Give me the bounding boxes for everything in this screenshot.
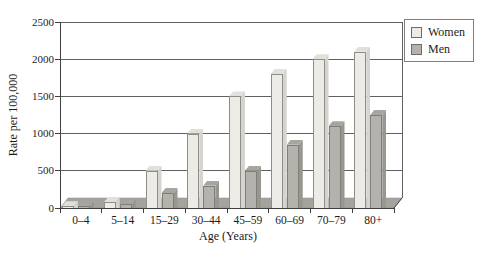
bar-men-30-44: [203, 186, 215, 208]
legend-item-men: Men: [411, 43, 473, 56]
bar-side-men-70-79: [341, 121, 345, 208]
bar-men-15-29: [162, 193, 174, 208]
bar-side-men-45-59: [257, 166, 261, 208]
bar-side-men-60-69: [299, 140, 303, 208]
bar-men-80+: [370, 115, 382, 208]
bar-men-0-4: [78, 206, 90, 208]
legend-label-women: Women: [428, 26, 465, 39]
legend-item-women: Women: [411, 26, 473, 39]
bar-women-80+: [354, 52, 366, 208]
bar-men-45-59: [245, 171, 257, 208]
bar-women-5-14: [104, 202, 116, 208]
legend-swatch-women: [411, 27, 422, 38]
legend-swatch-men: [411, 44, 422, 55]
chart-figure: Rate per 100,000 Age (Years) 05001000150…: [0, 0, 477, 259]
bar-women-60-69: [271, 74, 283, 208]
legend-label-men: Men: [428, 43, 450, 56]
legend: Women Men: [404, 19, 474, 62]
bar-men-60-69: [287, 145, 299, 208]
bar-men-5-14: [120, 204, 132, 208]
bar-men-70-79: [329, 126, 341, 208]
bar-women-0-4: [62, 206, 74, 208]
bar-side-men-80+: [382, 110, 386, 208]
bar-women-30-44: [187, 134, 199, 208]
bar-women-45-59: [229, 96, 241, 208]
bar-women-15-29: [146, 171, 158, 208]
bar-women-70-79: [313, 59, 325, 208]
